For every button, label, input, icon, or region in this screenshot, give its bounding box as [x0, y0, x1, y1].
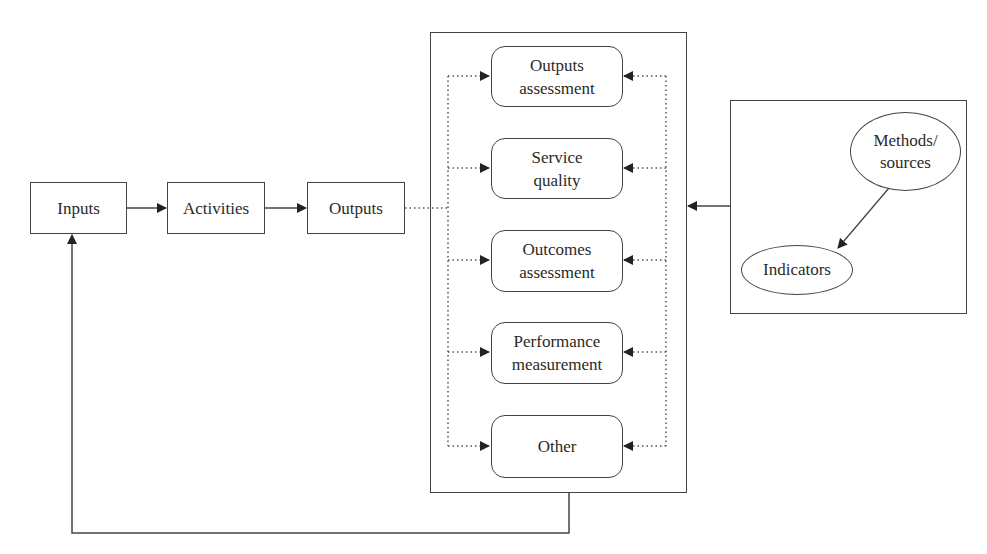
outcomes-assessment-label: Outcomes assessment [519, 238, 595, 284]
outputs-assessment-box: Outputs assessment [491, 46, 623, 107]
other-box: Other [491, 415, 623, 478]
inputs-box: Inputs [30, 182, 127, 234]
methods-sources-label: Methods/ sources [873, 130, 937, 174]
inputs-label: Inputs [57, 197, 100, 220]
outcomes-assessment-box: Outcomes assessment [491, 230, 623, 292]
service-quality-label: Service quality [532, 146, 583, 192]
outputs-box: Outputs [307, 182, 405, 234]
indicators-label: Indicators [763, 259, 831, 281]
performance-measurement-label: Performance measurement [512, 330, 603, 376]
activities-label: Activities [183, 197, 249, 220]
methods-sources-ellipse: Methods/ sources [850, 112, 961, 191]
indicators-ellipse: Indicators [741, 245, 853, 295]
other-label: Other [538, 435, 577, 458]
outputs-label: Outputs [329, 197, 383, 220]
service-quality-box: Service quality [491, 138, 623, 199]
outputs-assessment-label: Outputs assessment [519, 54, 595, 100]
performance-measurement-box: Performance measurement [491, 322, 623, 384]
activities-box: Activities [167, 182, 265, 234]
